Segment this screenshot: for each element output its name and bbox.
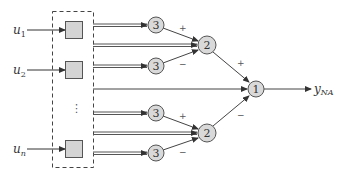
svg-text:1: 1: [253, 83, 260, 96]
svg-text:3: 3: [153, 60, 160, 73]
svg-text:2: 2: [204, 127, 211, 140]
sign-output-minus: −: [237, 110, 245, 120]
input-node-n: [66, 141, 83, 158]
layer3-node: 3: [148, 58, 164, 74]
svg-text:3: 3: [153, 147, 160, 160]
input-node-2: [66, 62, 83, 79]
ellipsis: ⋮: [71, 102, 82, 115]
svg-text:3: 3: [153, 19, 160, 32]
sign-bottom-plus: +: [179, 111, 187, 121]
input-label-u2: u2: [13, 63, 26, 79]
sign-top-plus: +: [179, 23, 187, 33]
sign-output-plus: +: [237, 58, 245, 68]
layer3-node: 3: [148, 105, 164, 121]
layer2-node: 2: [198, 36, 216, 54]
svg-text:3: 3: [153, 107, 160, 120]
sign-bottom-minus: −: [179, 147, 187, 157]
layer3-node: 3: [148, 145, 164, 161]
layer3-node: 3: [148, 17, 164, 33]
svg-text:2: 2: [204, 39, 211, 52]
input-label-u1: u1: [13, 23, 26, 39]
diagram-canvas: u1 u2 un ⋮: [0, 0, 344, 177]
sign-top-minus: −: [179, 59, 187, 69]
layer1-output-node: 1: [248, 81, 264, 97]
input-label-un: un: [13, 142, 26, 158]
layer2-node: 2: [198, 124, 216, 142]
input-node-1: [66, 22, 83, 39]
output-label: yNA: [313, 82, 334, 97]
